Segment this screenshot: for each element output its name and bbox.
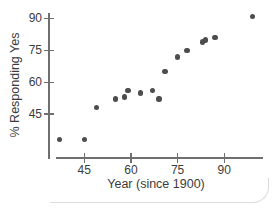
data-point [125, 88, 130, 93]
x-axis-tick [177, 153, 178, 163]
x-axis-tick-label: 60 [119, 164, 143, 177]
data-point [122, 94, 127, 99]
data-point [250, 14, 255, 19]
data-point [94, 105, 99, 110]
x-axis-title: Year (since 1900) [95, 177, 217, 192]
data-point [156, 96, 161, 101]
data-point [138, 90, 143, 95]
y-axis-tick [44, 82, 54, 83]
x-axis-tick [84, 153, 85, 163]
y-axis-tick [44, 113, 54, 114]
y-axis-line [48, 13, 49, 159]
y-axis-tick [44, 50, 54, 51]
y-axis-tick [44, 18, 54, 19]
x-axis-tick [224, 153, 225, 163]
x-axis-tick-label: 75 [166, 164, 190, 177]
x-axis-tick [130, 153, 131, 163]
data-point [162, 69, 167, 74]
data-point [212, 35, 217, 40]
data-point [82, 137, 87, 142]
data-point [150, 88, 155, 93]
data-point [57, 137, 62, 142]
y-axis-title: % Responding Yes [7, 10, 23, 160]
data-point [203, 37, 208, 42]
data-point [184, 48, 189, 53]
x-axis-line [56, 157, 263, 158]
data-point [175, 54, 180, 59]
x-axis-tick-label: 90 [212, 164, 236, 177]
x-axis-tick-label: 45 [72, 164, 96, 177]
scatter-plot-figure: 4560759045607590 % Responding Yes Year (… [0, 0, 272, 209]
data-point [113, 96, 118, 101]
